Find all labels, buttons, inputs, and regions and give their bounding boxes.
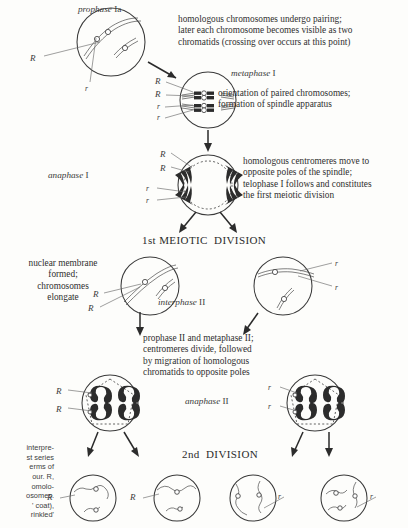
caption-line: erms of	[0, 462, 54, 472]
caption-line: rinkled'	[0, 510, 54, 520]
caption-line: interpre-	[0, 443, 54, 453]
figure-caption: interpre- st series erms of our. R, omol…	[0, 443, 54, 520]
gamete-cells	[0, 0, 408, 528]
caption-line: osomes.	[0, 491, 54, 501]
caption-line: ' coat),	[0, 501, 54, 511]
caption-line: st series	[0, 453, 54, 463]
meiosis-figure: prophase Ia homologous chromosomes under…	[0, 0, 408, 528]
caption-line: our. R,	[0, 472, 54, 482]
caption-line: omolo-	[0, 482, 54, 492]
